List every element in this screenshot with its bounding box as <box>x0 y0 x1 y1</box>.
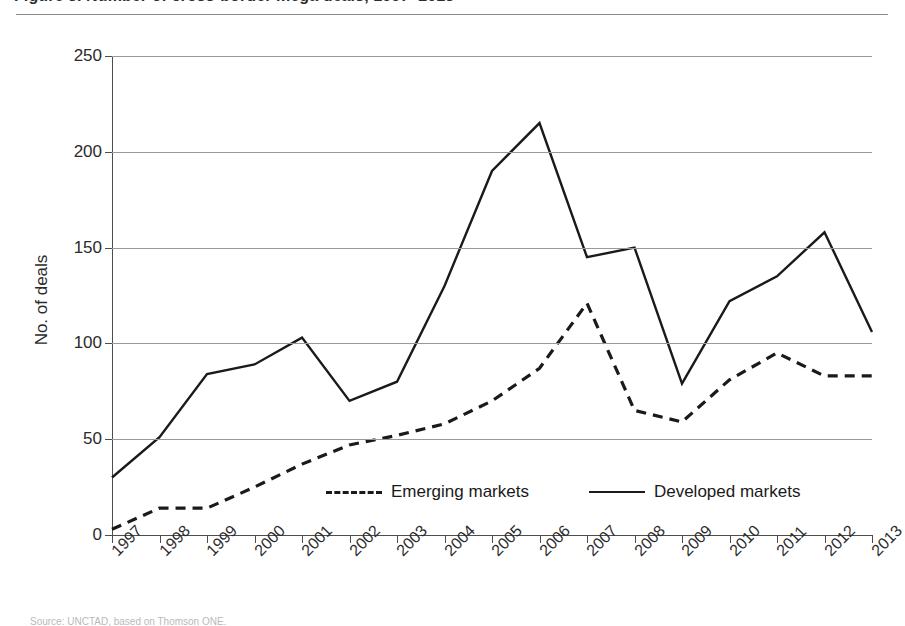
legend-item-emerging-markets[interactable]: Emerging markets <box>326 482 529 502</box>
y-axis-tick <box>105 248 112 249</box>
gridline <box>112 439 872 440</box>
chart-legend: Emerging markets Developed markets <box>326 482 800 502</box>
figure-title: Figure 3. Number of cross-border mega de… <box>14 0 874 5</box>
legend-swatch-dashed-icon <box>326 491 382 494</box>
x-axis-tick-labels: 1997199819992000200120022003200420052006… <box>112 545 892 615</box>
title-divider <box>16 14 888 15</box>
y-axis-tick-label: 150 <box>74 238 102 258</box>
gridline <box>112 343 872 344</box>
gridline <box>112 248 872 249</box>
legend-item-developed-markets[interactable]: Developed markets <box>589 482 800 502</box>
gridline <box>112 56 872 57</box>
y-axis-tick <box>105 343 112 344</box>
series-lines <box>112 56 872 535</box>
y-axis-tick-label: 0 <box>93 525 102 545</box>
y-axis-tick-labels: 050100150200250 <box>40 56 102 535</box>
figure-source-note: Source: UNCTAD, based on Thomson ONE. <box>30 616 530 626</box>
gridline <box>112 152 872 153</box>
y-axis-tick <box>105 152 112 153</box>
legend-label: Developed markets <box>654 482 800 502</box>
series-line <box>112 123 872 477</box>
legend-swatch-solid-icon <box>589 491 645 493</box>
plot-area <box>112 56 872 535</box>
legend-label: Emerging markets <box>391 482 529 502</box>
y-axis-tick <box>105 535 112 536</box>
y-axis-tick <box>105 439 112 440</box>
y-axis-tick-label: 100 <box>74 333 102 353</box>
y-axis-tick-label: 250 <box>74 46 102 66</box>
x-axis-tick-label: 2013 <box>868 522 905 560</box>
y-axis-tick-label: 200 <box>74 142 102 162</box>
y-axis-tick <box>105 56 112 57</box>
y-axis-tick-label: 50 <box>83 429 102 449</box>
chart-figure: Figure 3. Number of cross-border mega de… <box>0 0 905 626</box>
